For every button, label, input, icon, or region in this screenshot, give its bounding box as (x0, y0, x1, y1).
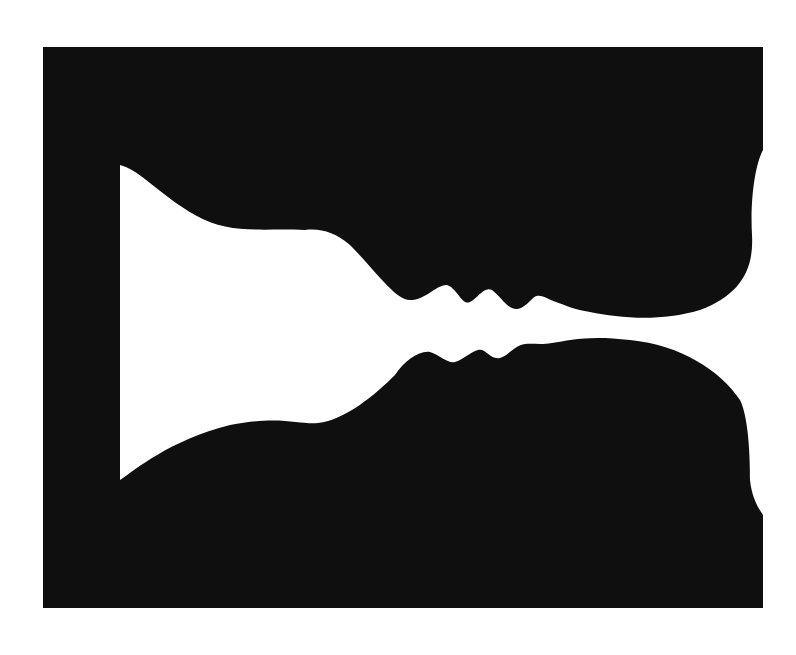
illusion-graphic (0, 0, 796, 655)
rubin-vase-image: Rubin vase illusion — two facing profile… (0, 0, 796, 655)
